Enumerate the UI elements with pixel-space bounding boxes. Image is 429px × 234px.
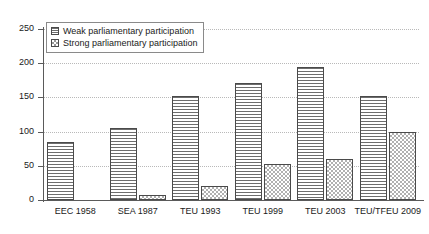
y-axis-tick-label: 100 xyxy=(0,127,34,136)
bar-group xyxy=(47,29,103,200)
bar[interactable] xyxy=(47,142,74,200)
bars-layer xyxy=(44,29,419,200)
bar-group xyxy=(235,29,291,200)
bar-chart: 050100150200250 EEC 1958SEA 1987TEU 1993… xyxy=(0,0,429,234)
x-axis-line xyxy=(38,200,424,201)
legend-item-label: Strong parliamentary participation xyxy=(63,38,198,48)
legend-item-label: Weak parliamentary participation xyxy=(63,26,194,36)
bar[interactable] xyxy=(264,164,291,200)
bar[interactable] xyxy=(389,132,416,200)
bar[interactable] xyxy=(172,96,199,200)
y-tick-mark xyxy=(38,200,44,201)
y-axis-tick-label: 150 xyxy=(0,92,34,101)
bar[interactable] xyxy=(110,128,137,200)
bar-group xyxy=(297,29,353,200)
checker-swatch-icon xyxy=(51,39,59,47)
y-axis-tick-label: 0 xyxy=(0,195,34,204)
bar-group xyxy=(110,29,166,200)
hlines-swatch-icon xyxy=(51,27,59,35)
bar-group xyxy=(172,29,228,200)
y-axis-tick-label: 250 xyxy=(0,24,34,33)
bar[interactable] xyxy=(360,96,387,200)
bar[interactable] xyxy=(326,159,353,200)
bar[interactable] xyxy=(201,186,228,200)
bar[interactable] xyxy=(235,83,262,200)
y-axis-tick-label: 50 xyxy=(0,161,34,170)
y-axis-tick-label: 200 xyxy=(0,58,34,67)
bar[interactable] xyxy=(139,195,166,200)
bar-group xyxy=(360,29,416,200)
legend-item[interactable]: Strong parliamentary participation xyxy=(51,37,198,49)
legend-item[interactable]: Weak parliamentary participation xyxy=(51,25,198,37)
x-axis-tick-label: TEU/TFEU 2009 xyxy=(351,206,426,216)
bar[interactable] xyxy=(297,67,324,200)
chart-legend: Weak parliamentary participationStrong p… xyxy=(46,22,204,53)
